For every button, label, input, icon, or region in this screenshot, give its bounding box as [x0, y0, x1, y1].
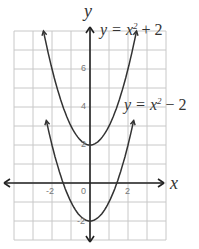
y-tick-4: 4 — [81, 102, 86, 111]
x-tick-neg2: -2 — [46, 187, 54, 196]
x-tick-2: 2 — [125, 187, 130, 196]
y-tick-neg2: -2 — [77, 217, 85, 226]
curve-label-upper: y = x2 + 2 — [100, 22, 163, 38]
curve-label-lower: y = x2 − 2 — [124, 97, 187, 113]
y-axis-label: y — [84, 2, 92, 20]
x-tick-0: 0 — [81, 187, 86, 196]
y-tick-6: 6 — [81, 64, 86, 73]
x-axis-label: x — [170, 174, 178, 192]
y-tick-2: 2 — [81, 140, 86, 149]
